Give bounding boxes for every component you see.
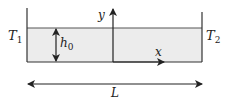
label-x: x xyxy=(155,45,162,59)
label-t1: T1 xyxy=(8,28,22,45)
label-y: y xyxy=(97,8,105,22)
channel-diagram: T1 T2 h0 y x L xyxy=(0,0,231,100)
label-t2: T2 xyxy=(206,28,220,45)
liquid-layer xyxy=(27,28,202,62)
label-L: L xyxy=(110,86,119,100)
